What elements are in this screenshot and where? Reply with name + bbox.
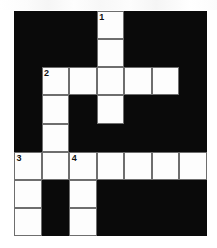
crossword-cell-block [152,39,180,67]
crossword-cell-block [14,124,42,152]
crossword-cell-open[interactable] [69,180,97,208]
crossword-cell-open[interactable] [179,152,207,180]
crossword-cell-open[interactable] [97,67,125,95]
crossword-cell-open[interactable] [97,39,125,67]
crossword-cell-block [179,39,207,67]
crossword-cell-block [42,180,70,208]
crossword-cell-open[interactable] [152,67,180,95]
crossword-cell-block [179,67,207,95]
crossword-cell-block [179,180,207,208]
crossword-cell-block [124,95,152,123]
crossword-cell-open[interactable] [152,152,180,180]
clue-number-1: 1 [99,12,104,22]
crossword-cell-open[interactable] [124,152,152,180]
crossword-cell-open[interactable] [97,95,125,123]
crossword-cell-block [152,208,180,236]
crossword-cell-block [124,11,152,39]
crossword-cell-block [179,95,207,123]
crossword-cell-block [179,11,207,39]
crossword-cell-block [42,39,70,67]
crossword-cell-block [42,208,70,236]
crossword-cell-block [69,124,97,152]
crossword-cell-block [69,39,97,67]
crossword-cell-open[interactable] [97,152,125,180]
scan-artifact-band [0,0,217,10]
crossword-puzzle-root: 1234 [0,0,217,248]
crossword-cell-block [69,95,97,123]
crossword-cell-block [179,208,207,236]
crossword-cell-open[interactable] [14,208,42,236]
crossword-cell-block [124,208,152,236]
crossword-cell-block [69,11,97,39]
crossword-cell-block [14,67,42,95]
crossword-cell-open[interactable] [69,208,97,236]
crossword-cell-open[interactable] [42,152,70,180]
clue-number-3: 3 [17,153,22,163]
crossword-cell-open[interactable]: 4 [69,152,97,180]
crossword-cell-block [124,124,152,152]
crossword-cell-block [97,180,125,208]
crossword-cell-open[interactable]: 2 [42,67,70,95]
crossword-cell-open[interactable] [14,180,42,208]
crossword-cell-open[interactable]: 3 [14,152,42,180]
crossword-cell-block [152,180,180,208]
crossword-cell-block [97,208,125,236]
crossword-cell-open[interactable] [42,95,70,123]
crossword-cell-block [42,11,70,39]
crossword-cell-open[interactable] [124,67,152,95]
clue-number-2: 2 [44,68,49,78]
crossword-cell-open[interactable] [42,124,70,152]
clue-number-4: 4 [72,153,77,163]
crossword-grid[interactable]: 1234 [14,11,207,236]
crossword-cell-block [124,180,152,208]
crossword-cell-block [14,39,42,67]
crossword-cell-block [152,11,180,39]
crossword-cell-open[interactable]: 1 [97,11,125,39]
crossword-cell-block [124,39,152,67]
crossword-cell-block [97,124,125,152]
crossword-cell-block [179,124,207,152]
crossword-cell-block [14,95,42,123]
crossword-cell-block [152,124,180,152]
crossword-cell-block [14,11,42,39]
crossword-cell-block [152,95,180,123]
crossword-cell-open[interactable] [69,67,97,95]
